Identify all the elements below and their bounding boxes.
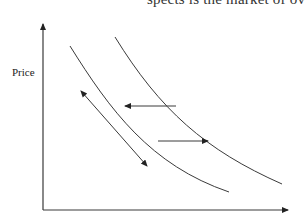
demand-shift-diagram <box>0 0 305 224</box>
demand-curve-1 <box>70 46 229 192</box>
demand-curve-2 <box>115 37 282 184</box>
movement-along-curve-arrow <box>81 91 147 166</box>
